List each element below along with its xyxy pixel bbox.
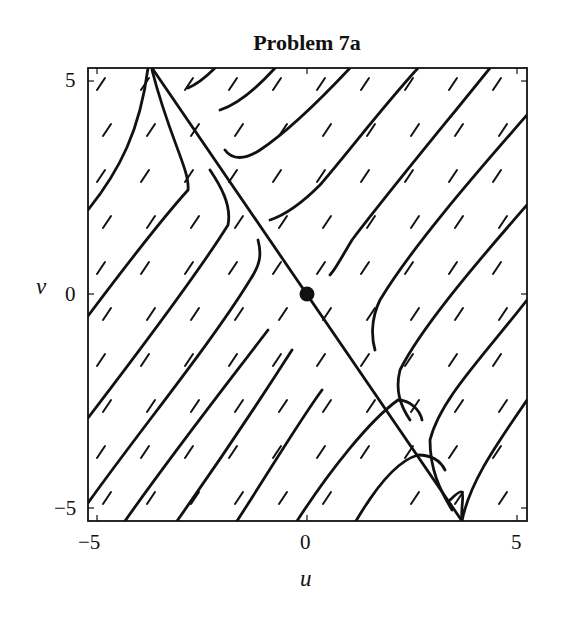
equilibrium-point: [300, 287, 315, 302]
x-tick-0: 0: [300, 530, 311, 555]
x-tick-5: 5: [511, 530, 522, 555]
y-tick-5: 5: [65, 68, 76, 93]
y-tick-0: 0: [65, 282, 76, 307]
x-tick-neg5: −5: [78, 530, 100, 555]
x-axis-label: u: [300, 566, 312, 592]
y-axis-label: v: [36, 274, 46, 300]
y-tick-neg5: −5: [54, 496, 76, 521]
phase-plot: [0, 0, 562, 622]
